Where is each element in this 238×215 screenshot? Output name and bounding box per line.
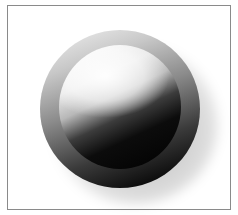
button-inner-disc — [59, 45, 181, 169]
